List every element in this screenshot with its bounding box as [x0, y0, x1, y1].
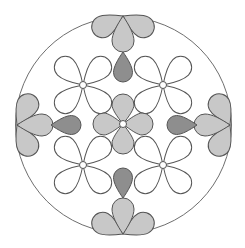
dark-petal	[114, 52, 133, 82]
flower-hub	[160, 162, 167, 169]
center-hub	[120, 121, 127, 128]
flower-hub	[80, 162, 87, 169]
dark-petal	[51, 116, 81, 135]
flower-hub	[160, 82, 167, 89]
flower-hub	[80, 82, 87, 89]
dark-petal	[167, 116, 197, 135]
dark-petal	[114, 168, 133, 198]
petal-pattern-diagram	[0, 0, 245, 248]
